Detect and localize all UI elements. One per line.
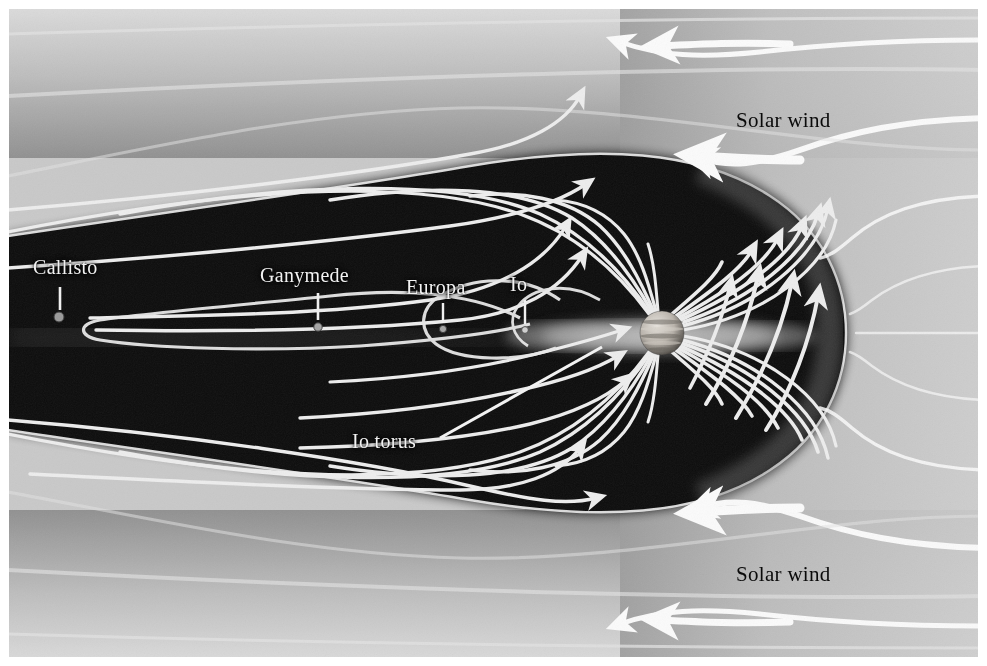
label-ganymede: Ganymede <box>260 264 349 287</box>
label-io-torus: Io torus <box>352 430 416 453</box>
label-io: Io <box>510 273 527 296</box>
diagram-body <box>0 0 987 666</box>
label-solar-wind-top: Solar wind <box>736 108 831 133</box>
label-callisto: Callisto <box>33 256 98 279</box>
magnetosphere-diagram <box>0 0 987 666</box>
label-solar-wind-bottom: Solar wind <box>736 562 831 587</box>
film-grain <box>0 0 987 666</box>
label-europa: Europa <box>406 276 466 299</box>
figure-canvas: Callisto Ganymede Europa Io Io torus Sol… <box>0 0 987 666</box>
